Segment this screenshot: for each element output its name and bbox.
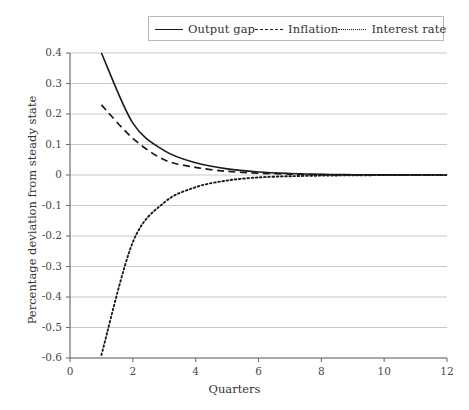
x-tick-label: 10 bbox=[369, 365, 399, 377]
legend-label-output-gap: Output gap bbox=[188, 22, 255, 36]
x-tick-label: 4 bbox=[181, 365, 211, 377]
series-line-inflation bbox=[101, 105, 447, 175]
legend-line-sample-solid-icon bbox=[155, 24, 183, 34]
y-axis-title: Percentage deviation from steady state bbox=[25, 55, 39, 365]
gridlines bbox=[70, 53, 447, 358]
plot-area bbox=[0, 0, 469, 410]
x-tick-label: 2 bbox=[118, 365, 148, 377]
data-series-group bbox=[101, 53, 447, 355]
legend-label-inflation: Inflation bbox=[288, 22, 338, 36]
legend-entry-inflation: Inflation bbox=[255, 22, 338, 36]
legend-label-interest-rate: Interest rate bbox=[371, 22, 446, 36]
legend-entry-interest-rate: Interest rate bbox=[338, 22, 446, 36]
x-tick-label: 6 bbox=[244, 365, 274, 377]
legend-entry-output-gap: Output gap bbox=[155, 22, 255, 36]
x-tick-label: 0 bbox=[55, 365, 85, 377]
legend-line-sample-dashed-icon bbox=[255, 24, 283, 34]
chart-legend: Output gap Inflation Interest rate bbox=[148, 16, 444, 41]
x-axis-title: Quarters bbox=[0, 382, 469, 396]
legend-line-sample-dotted-icon bbox=[338, 24, 366, 34]
x-tick-label: 12 bbox=[432, 365, 462, 377]
chart-figure: Output gap Inflation Interest rate 0.40.… bbox=[0, 0, 469, 410]
axis-ticks bbox=[66, 53, 447, 362]
x-tick-label: 8 bbox=[306, 365, 336, 377]
